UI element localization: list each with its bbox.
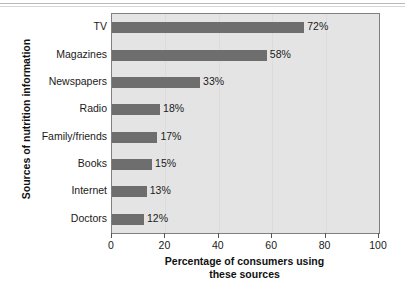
scan-artifact-line	[0, 3, 405, 4]
bar	[112, 50, 267, 61]
bar-value-label: 72%	[307, 21, 328, 32]
x-axis-tick-label: 100	[358, 239, 398, 251]
x-axis-title-line1: Percentage of consumers using	[111, 255, 378, 268]
grid-line	[272, 14, 273, 233]
x-axis-tick	[218, 233, 219, 238]
grid-line	[165, 14, 166, 233]
x-axis-tick	[325, 233, 326, 238]
bar	[112, 22, 304, 33]
bar-value-label: 15%	[155, 158, 176, 169]
grid-line	[219, 14, 220, 233]
y-axis-tick-label: Magazines	[2, 49, 107, 60]
bar	[112, 214, 144, 225]
x-axis-tick-label: 60	[251, 239, 291, 251]
x-axis-tick	[111, 233, 112, 238]
bar-value-label: 33%	[203, 76, 224, 87]
scan-artifact-line	[0, 6, 405, 7]
bar-value-label: 58%	[270, 49, 291, 60]
y-axis-tick-label: Internet	[2, 185, 107, 196]
x-axis-title: Percentage of consumers using these sour…	[111, 255, 378, 281]
x-axis-tick-label: 0	[91, 239, 131, 251]
plot-inner	[112, 14, 379, 233]
bar-value-label: 13%	[150, 185, 171, 196]
y-axis-tick-label: Radio	[2, 103, 107, 114]
plot-area	[111, 13, 380, 234]
x-axis-tick-label: 40	[198, 239, 238, 251]
y-axis-tick-labels: TVMagazinesNewspapersRadioFamily/friends…	[0, 13, 107, 232]
bar-value-label: 18%	[163, 103, 184, 114]
grid-line	[326, 14, 327, 233]
x-axis-title-line2: these sources	[111, 268, 378, 281]
y-axis-tick-label: Doctors	[2, 213, 107, 224]
y-axis-tick-label: Newspapers	[2, 76, 107, 87]
bar	[112, 132, 157, 143]
y-axis-tick-label: Books	[2, 158, 107, 169]
bar	[112, 186, 147, 197]
y-axis-tick-label: TV	[2, 21, 107, 32]
bar	[112, 159, 152, 170]
x-axis-tick	[271, 233, 272, 238]
chart-figure: Sources of nutrition information TVMagaz…	[0, 0, 405, 289]
bar-value-label: 12%	[147, 213, 168, 224]
bar	[112, 104, 160, 115]
y-axis-tick-label: Family/friends	[2, 131, 107, 142]
bar	[112, 77, 200, 88]
x-axis-tick	[378, 233, 379, 238]
x-axis-tick-label: 80	[305, 239, 345, 251]
x-axis-tick	[164, 233, 165, 238]
x-axis-tick-label: 20	[144, 239, 184, 251]
bar-value-label: 17%	[160, 131, 181, 142]
